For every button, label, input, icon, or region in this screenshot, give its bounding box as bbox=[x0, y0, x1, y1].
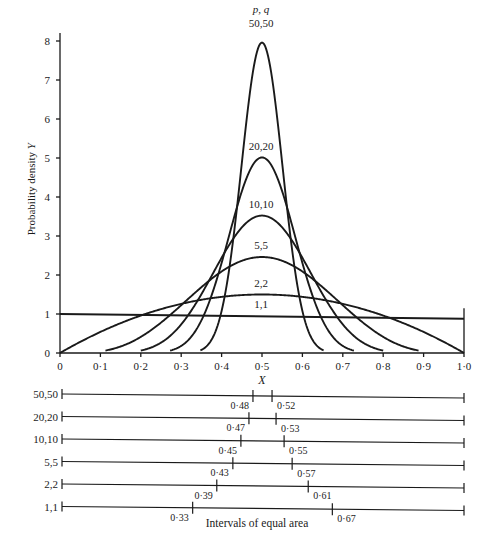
interval-row: 10,100·450·55 bbox=[33, 433, 464, 456]
y-tick-label: 6 bbox=[45, 113, 51, 125]
intervals-caption: Intervals of equal area bbox=[206, 517, 308, 530]
interval-row: 20,200·470·53 bbox=[33, 411, 464, 434]
interval-row-label: 1,1 bbox=[44, 501, 58, 513]
y-tick-label: 0 bbox=[45, 347, 51, 359]
interval-row-label: 20,20 bbox=[33, 411, 58, 423]
beta-density-chart: 01234567800·10·20·30·40·50·60·70·80·91·0… bbox=[0, 0, 485, 544]
curve-label: 1,1 bbox=[254, 298, 268, 310]
interval-upper-label: 0·57 bbox=[297, 468, 315, 479]
y-axis-label: Probability density Y bbox=[25, 141, 37, 235]
curve-label: 20,20 bbox=[249, 140, 274, 152]
interval-lower-label: 0·47 bbox=[227, 422, 245, 433]
y-tick-label: 5 bbox=[45, 152, 51, 164]
x-tick-label: 0·4 bbox=[214, 360, 229, 372]
legend-header: p, q bbox=[252, 3, 270, 15]
interval-row: 5,50·430·57 bbox=[44, 456, 464, 479]
x-tick-label: 0·7 bbox=[335, 360, 350, 372]
interval-lower-label: 0·33 bbox=[170, 512, 188, 523]
y-tick-label: 1 bbox=[45, 308, 51, 320]
curve-label: 50,50 bbox=[249, 17, 274, 29]
x-axis-label: X bbox=[257, 373, 266, 387]
interval-upper-label: 0·67 bbox=[337, 513, 355, 524]
x-tick-label: 0·8 bbox=[376, 360, 391, 372]
curve-1-1 bbox=[60, 314, 464, 319]
axes: 01234567800·10·20·30·40·50·60·70·80·91·0… bbox=[25, 33, 472, 387]
curve-label: 10,10 bbox=[249, 198, 274, 210]
x-tick-label: 0·1 bbox=[93, 360, 108, 372]
interval-row: 2,20·390·61 bbox=[44, 478, 464, 501]
y-tick-label: 2 bbox=[45, 269, 51, 281]
interval-upper-label: 0·53 bbox=[281, 423, 299, 434]
y-tick-label: 7 bbox=[45, 74, 51, 86]
y-tick-label: 4 bbox=[45, 191, 51, 203]
interval-row: 50,500·480·52 bbox=[33, 388, 464, 411]
interval-row-label: 5,5 bbox=[44, 456, 58, 468]
interval-lower-label: 0·39 bbox=[194, 490, 212, 501]
interval-row-label: 50,50 bbox=[33, 388, 58, 400]
interval-row-label: 10,10 bbox=[33, 433, 58, 445]
interval-lower-label: 0·45 bbox=[219, 445, 237, 456]
x-tick-label: 0 bbox=[57, 360, 63, 372]
curve-label: 5,5 bbox=[254, 239, 268, 251]
equal-area-intervals: 50,500·480·5220,200·470·5310,100·450·555… bbox=[33, 388, 464, 530]
y-tick-label: 8 bbox=[45, 35, 51, 47]
interval-upper-label: 0·52 bbox=[277, 400, 295, 411]
x-tick-label: 0·6 bbox=[295, 360, 310, 372]
interval-lower-label: 0·43 bbox=[211, 467, 229, 478]
interval-upper-label: 0·61 bbox=[313, 490, 331, 501]
curve-labels: p, q1,12,25,510,1020,2050,50 bbox=[249, 3, 274, 310]
x-tick-label: 0·9 bbox=[416, 360, 431, 372]
curve-20-20 bbox=[170, 157, 354, 350]
x-tick-label: 1·0 bbox=[457, 360, 472, 372]
interval-row-label: 2,2 bbox=[44, 478, 58, 490]
curve-label: 2,2 bbox=[254, 277, 268, 289]
x-tick-label: 0·5 bbox=[255, 360, 270, 372]
x-tick-label: 0·3 bbox=[174, 360, 189, 372]
y-tick-label: 3 bbox=[45, 230, 51, 242]
interval-upper-label: 0·55 bbox=[289, 445, 307, 456]
interval-lower-label: 0·48 bbox=[231, 400, 249, 411]
x-tick-label: 0·2 bbox=[133, 360, 148, 372]
